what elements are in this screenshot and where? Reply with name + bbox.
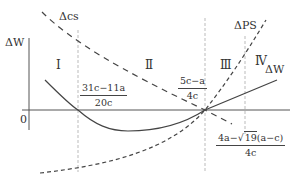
threshold-3-num-inner: a−c <box>261 132 280 143</box>
region-3-label: Ⅲ <box>220 59 232 71</box>
threshold-3-denominator: 4c <box>245 146 256 158</box>
region-4-label: Ⅳ <box>255 55 267 67</box>
origin-label: 0 <box>20 114 27 125</box>
threshold-1-fraction: 31c−11a 20c <box>80 83 127 107</box>
threshold-2-numerator: 5c−a <box>178 76 207 89</box>
delta-ps-label: ΔPS <box>234 20 257 31</box>
threshold-3-num-close: ) <box>280 132 284 143</box>
sqrt-sign: √ <box>238 132 244 143</box>
threshold-3-numerator: 4a−√19(a−c) <box>216 133 285 146</box>
welfare-diagram: ΔW 0 Δcs ΔPS ΔW Ⅰ Ⅱ Ⅲ Ⅳ 31c−11a 20c 5c−a… <box>0 0 295 184</box>
region-2-label: Ⅱ <box>145 59 153 71</box>
threshold-2-fraction: 5c−a 4c <box>178 76 207 100</box>
region-1-label: Ⅰ <box>56 59 61 71</box>
threshold-1-numerator: 31c−11a <box>80 83 127 96</box>
delta-cs-curve <box>42 12 232 124</box>
threshold-2-denominator: 4c <box>187 89 198 101</box>
y-axis-label: ΔW <box>5 37 24 48</box>
threshold-3-fraction: 4a−√19(a−c) 4c <box>216 133 285 157</box>
threshold-3-num-prefix: 4a− <box>218 132 238 143</box>
delta-w-label: ΔW <box>265 64 284 75</box>
threshold-1-denominator: 20c <box>95 96 112 108</box>
delta-cs-label: Δcs <box>59 11 79 22</box>
threshold-3-num-sqrt: 19 <box>244 131 257 143</box>
